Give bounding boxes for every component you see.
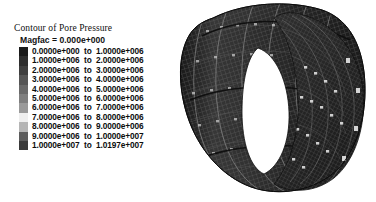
contour-legend-panel: Contour of Pore Pressure Magfac = 0.000e… xyxy=(14,22,162,150)
legend-magfac-label: Magfac = 0.000e+000 xyxy=(20,35,162,46)
screenshot-root: Contour of Pore Pressure Magfac = 0.000e… xyxy=(0,0,376,202)
legend-color-swatch xyxy=(19,66,28,75)
legend-color-swatch xyxy=(19,141,28,150)
legend-row-list: 0.0000e+000 to 1.0000e+0061.0000e+006 to… xyxy=(14,47,162,150)
legend-color-swatch xyxy=(19,75,28,84)
cylinder-mesh-graphic xyxy=(150,0,376,202)
legend-title: Contour of Pore Pressure xyxy=(14,22,162,34)
legend-range-text: 1.0000e+007 to 1.0197e+007 xyxy=(32,141,144,150)
legend-color-swatch xyxy=(19,132,28,141)
legend-color-swatch xyxy=(19,113,28,122)
legend-color-swatch xyxy=(19,56,28,65)
model-viewport[interactable] xyxy=(150,0,376,202)
legend-color-swatch xyxy=(19,103,28,112)
legend-color-swatch xyxy=(19,122,28,131)
legend-color-swatch xyxy=(19,47,28,56)
legend-color-swatch xyxy=(19,94,28,103)
legend-row: 1.0000e+007 to 1.0197e+007 xyxy=(14,141,162,150)
legend-color-swatch xyxy=(19,85,28,94)
